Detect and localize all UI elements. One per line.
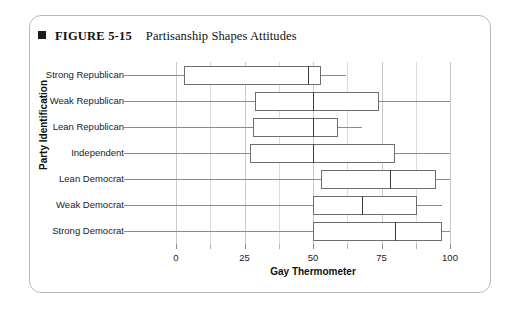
- box-plot-box: [250, 144, 395, 163]
- box-plot-median: [362, 196, 363, 215]
- x-axis-tick: [313, 244, 314, 249]
- x-axis-tick-label: 25: [239, 252, 250, 263]
- x-axis-tick: [450, 244, 451, 249]
- chart-plot: Party Identification Strong RepublicanWe…: [0, 0, 517, 309]
- box-plot-median: [313, 144, 314, 163]
- x-axis-tick: [245, 244, 246, 249]
- plot-area: [176, 62, 450, 244]
- y-axis-tick-labels: Strong RepublicanWeak RepublicanLean Rep…: [60, 62, 124, 244]
- y-axis-tick-label: Weak Republican: [50, 95, 124, 106]
- y-axis-tick-label: Weak Democrat: [56, 199, 124, 210]
- x-axis-minor-tick: [416, 244, 417, 249]
- x-axis-tick: [176, 244, 177, 249]
- box-plot-box: [321, 170, 436, 189]
- box-plot-box: [253, 118, 338, 137]
- x-axis-title: Gay Thermometer: [176, 266, 450, 277]
- x-axis-tick-label: 0: [173, 252, 178, 263]
- y-axis-tick-label: Lean Democrat: [59, 173, 124, 184]
- gridline-major: [450, 62, 451, 244]
- box-plot-median: [313, 92, 314, 111]
- box-plot-median: [308, 66, 309, 85]
- box-plot-box: [313, 196, 417, 215]
- x-axis-tick: [382, 244, 383, 249]
- box-plot-median: [390, 170, 391, 189]
- x-axis-minor-tick: [210, 244, 211, 249]
- x-axis-tick-label: 100: [442, 252, 458, 263]
- x-axis-ticks: 0255075100: [176, 244, 450, 252]
- box-plot-median: [395, 222, 396, 241]
- y-axis-tick-label: Independent: [71, 147, 124, 158]
- x-axis-tick-label: 50: [308, 252, 319, 263]
- box-plot-box: [255, 92, 378, 111]
- y-axis-title: Party Identification: [38, 80, 49, 170]
- box-plot-box: [184, 66, 321, 85]
- x-axis-minor-tick: [279, 244, 280, 249]
- box-plot-box: [313, 222, 442, 241]
- y-axis-tick-label: Strong Democrat: [52, 225, 124, 236]
- x-axis-tick-label: 75: [376, 252, 387, 263]
- x-axis-minor-tick: [347, 244, 348, 249]
- figure-screenshot: FIGURE 5-15 Partisanship Shapes Attitude…: [0, 0, 517, 309]
- y-axis-tick-label: Lean Republican: [53, 121, 124, 132]
- y-axis-tick-label: Strong Republican: [46, 69, 124, 80]
- box-plot-median: [313, 118, 314, 137]
